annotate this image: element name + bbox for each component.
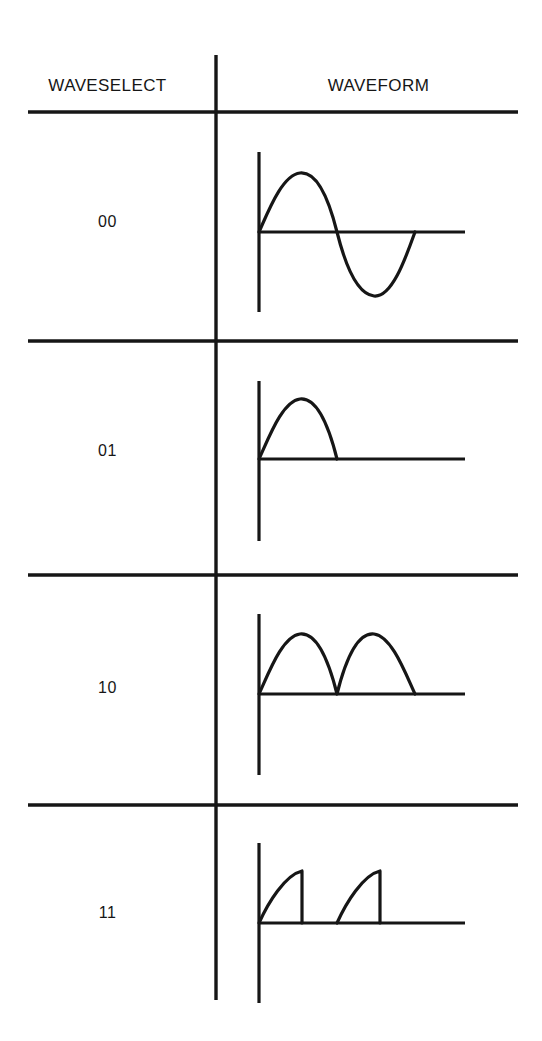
waveform-cell-11 bbox=[259, 843, 465, 1003]
waveform-trace-11-sawtooth-ramp-2 bbox=[337, 871, 380, 923]
column-header-waveform: WAVEFORM bbox=[215, 76, 542, 96]
waveselect-waveform-table bbox=[0, 0, 542, 1041]
waveselect-value-row-2: 10 bbox=[0, 679, 215, 697]
waveform-cell-10 bbox=[259, 614, 465, 775]
waveform-trace-10-rectified-sine bbox=[259, 634, 415, 694]
waveform-trace-00-full-sine bbox=[259, 173, 415, 296]
waveform-trace-01-half-sine bbox=[259, 399, 337, 459]
waveform-cell-01 bbox=[259, 381, 465, 541]
waveform-cell-00 bbox=[259, 152, 465, 312]
column-header-waveselect: WAVESELECT bbox=[0, 76, 215, 96]
waveselect-value-row-0: 00 bbox=[0, 213, 215, 231]
waveselect-value-row-1: 01 bbox=[0, 442, 215, 460]
waveselect-value-row-3: 11 bbox=[0, 904, 215, 922]
waveform-trace-11-sawtooth-ramp-1 bbox=[259, 871, 302, 923]
